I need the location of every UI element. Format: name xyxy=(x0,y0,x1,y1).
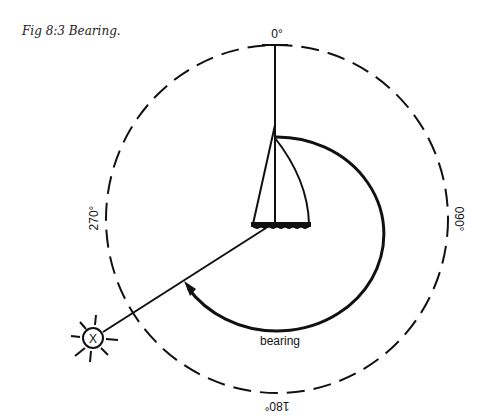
object-light-icon: X xyxy=(71,315,118,362)
south-label: 180° xyxy=(264,399,289,413)
sight-line xyxy=(103,228,266,332)
east-label: 090° xyxy=(452,207,466,232)
bearing-arc xyxy=(188,137,384,331)
bearing-label: bearing xyxy=(260,334,300,348)
bearing-diagram: X 0° 090° 180° 270° bearing xyxy=(0,0,490,420)
west-label: 270° xyxy=(87,205,101,230)
object-mark-label: X xyxy=(89,332,97,346)
north-label: 0° xyxy=(271,27,283,41)
